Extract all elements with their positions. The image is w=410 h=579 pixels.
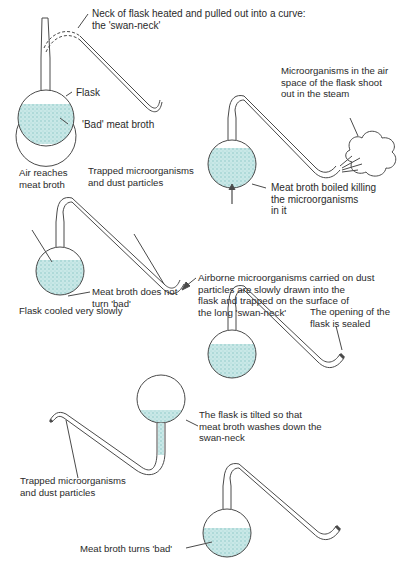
cooled-label: Flask cooled very slowly (19, 305, 122, 317)
steam-cloud (340, 131, 396, 176)
air-reaches-label: Air reaches meat broth (19, 167, 68, 190)
bad-broth-label: 'Bad' meat broth (82, 119, 154, 131)
trapped-label-bottom: Trapped microorganisms and dust particle… (20, 475, 126, 498)
flask-3 (34, 198, 184, 300)
tilted-label: The flask is tilted so that meat broth w… (199, 409, 322, 444)
boil-label: Meat broth boiled killing the microorgan… (271, 182, 376, 217)
sealed-label: The opening of the flask is sealed (310, 306, 390, 329)
trapped-label-top: Trapped microorganisms and dust particle… (88, 165, 194, 188)
neck-label: Neck of flask heated and pulled out into… (92, 8, 305, 31)
turns-bad-label: Meat broth turns 'bad' (80, 543, 172, 555)
steam-label: Microorganisms in the air space of the f… (281, 65, 388, 100)
flask-6 (200, 464, 340, 563)
flask-label: Flask (76, 87, 100, 99)
flask-5 (50, 375, 188, 475)
